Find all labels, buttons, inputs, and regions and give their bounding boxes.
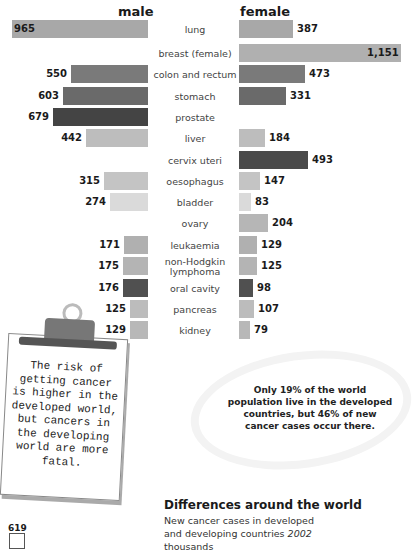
chart-row: stomach603331: [0, 87, 396, 107]
female-bar: [239, 87, 286, 105]
female-value: 147: [264, 175, 285, 186]
subtitle-year: 2002: [288, 528, 312, 539]
male-bar: [130, 300, 148, 318]
female-value: 493: [312, 154, 333, 165]
male-bar: [63, 87, 148, 105]
female-value: 473: [309, 68, 330, 79]
chart-row: cervix uteri493: [0, 151, 396, 171]
category-label: stomach: [152, 92, 238, 102]
chart-row: ovary204: [0, 214, 396, 234]
chart-row: prostate679: [0, 108, 396, 128]
chart-row: leukaemia171129: [0, 236, 396, 256]
category-label: non-Hodgkin lymphoma: [152, 257, 238, 277]
male-bar: [71, 65, 148, 83]
section-subtitle: New cancer cases in developed and develo…: [164, 514, 384, 553]
male-value: 550: [27, 68, 67, 79]
chart-row: oral cavity17698: [0, 279, 396, 299]
category-label: oral cavity: [152, 284, 238, 294]
female-value: 387: [297, 23, 318, 34]
male-value: 171: [80, 239, 120, 250]
female-value: 79: [254, 324, 268, 335]
chart-row: non-Hodgkin lymphoma175125: [0, 257, 396, 277]
male-bar: [130, 321, 148, 339]
male-bar: [123, 257, 148, 275]
chart-row: liver442184: [0, 129, 396, 149]
female-bar: [239, 279, 253, 297]
category-label: ovary: [152, 219, 238, 229]
section-title: Differences around the world: [164, 498, 362, 512]
population-note: Only 19% of the world population live in…: [226, 384, 394, 432]
female-value: 83: [255, 196, 269, 207]
male-bar: [124, 236, 148, 254]
chart-row: bladder27483: [0, 193, 396, 213]
female-bar: [239, 65, 305, 83]
female-value: 125: [261, 260, 282, 271]
mini-chart-bar: [9, 533, 25, 549]
female-bar: [239, 172, 260, 190]
male-value: 679: [9, 111, 49, 122]
male-bar: [104, 172, 148, 190]
female-bar: [239, 300, 254, 318]
chart-row: pancreas125107: [0, 300, 396, 320]
category-label: breast (female): [152, 49, 238, 59]
male-value: 176: [79, 282, 119, 293]
male-bar: [110, 193, 148, 211]
chart-row: breast (female)1,151: [0, 44, 396, 64]
category-label: liver: [152, 134, 238, 144]
female-value: 1,151: [367, 47, 399, 58]
female-bar: [239, 129, 265, 147]
chart-row: lung965387: [0, 20, 396, 40]
subtitle-line1: New cancer cases in developed: [164, 515, 314, 526]
female-bar: [239, 193, 251, 211]
female-bar: [239, 151, 308, 169]
male-value: 442: [42, 132, 82, 143]
category-label: bladder: [152, 198, 238, 208]
male-value: 274: [66, 196, 106, 207]
male-bar: [86, 129, 148, 147]
male-value: 603: [19, 90, 59, 101]
clipboard-text: The risk of getting cancer is higher in …: [6, 358, 122, 472]
male-value: 315: [60, 175, 100, 186]
male-value: 175: [79, 260, 119, 271]
clipboard-clip-bar: [19, 337, 117, 350]
category-label: leukaemia: [152, 241, 238, 251]
female-bar: [239, 214, 268, 232]
chart-row: oesophagus315147: [0, 172, 396, 192]
male-value: 125: [86, 303, 126, 314]
category-label: oesophagus: [152, 177, 238, 187]
male-bar: [53, 108, 148, 126]
subtitle-line3: thousands: [164, 541, 213, 552]
mini-chart-value: 619: [8, 523, 27, 533]
category-label: kidney: [152, 326, 238, 336]
female-value: 204: [272, 217, 293, 228]
female-value: 107: [258, 303, 279, 314]
male-value: 965: [14, 23, 54, 34]
female-bar: [239, 321, 250, 339]
male-header: male: [118, 4, 154, 19]
female-value: 129: [261, 239, 282, 250]
category-label: pancreas: [152, 305, 238, 315]
category-label: prostate: [152, 113, 238, 123]
female-bar: [239, 20, 293, 38]
category-label: cervix uteri: [152, 156, 238, 166]
clipboard-callout: The risk of getting cancer is higher in …: [0, 333, 128, 501]
female-value: 331: [290, 90, 311, 101]
female-bar: [239, 257, 257, 275]
female-header: female: [240, 4, 290, 19]
chart-row: colon and rectum550473: [0, 65, 396, 85]
subtitle-line2: and developing countries: [164, 528, 285, 539]
category-label: lung: [152, 25, 238, 35]
category-label: colon and rectum: [152, 70, 238, 80]
female-value: 98: [257, 282, 271, 293]
male-bar: [123, 279, 148, 297]
female-value: 184: [269, 132, 290, 143]
female-bar: [239, 236, 257, 254]
